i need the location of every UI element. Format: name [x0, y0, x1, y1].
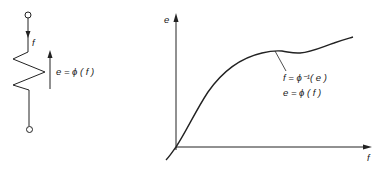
effort-arrowhead-icon: [48, 50, 53, 58]
x-axis-label: f: [367, 152, 371, 163]
y-axis-arrowhead-icon: [174, 13, 179, 22]
resistor-zigzag-icon: [13, 52, 45, 90]
effort-label: e = ϕ ( f ): [56, 66, 94, 77]
x-axis-arrowhead-icon: [363, 145, 372, 150]
bottom-terminal-icon: [27, 127, 33, 133]
characteristic-curve: [166, 37, 353, 160]
flow-arrow-icon: [26, 31, 31, 38]
top-terminal-icon: [25, 12, 31, 18]
y-axis-label: e: [164, 14, 169, 25]
flow-label: f: [32, 37, 36, 48]
diagram-canvas: f e = ϕ ( f ) e f f = ϕ⁻¹( e ) e = ϕ ( f…: [0, 0, 382, 169]
annotation-inverse-relation: f = ϕ⁻¹( e ): [283, 72, 327, 83]
resistor-element: f e = ϕ ( f ): [13, 12, 94, 133]
annotation-leader-line: [275, 51, 286, 71]
annotation-relation: e = ϕ ( f ): [283, 87, 321, 98]
characteristic-chart: e f f = ϕ⁻¹( e ) e = ϕ ( f ): [164, 13, 372, 163]
